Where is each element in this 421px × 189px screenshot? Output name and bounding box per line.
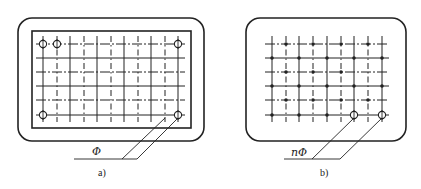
panel-b-staggered-grid — [246, 18, 406, 159]
tie-point-dot — [366, 42, 370, 46]
tie-point-dot — [297, 56, 301, 60]
diameter-label-b: nΦ — [291, 146, 307, 159]
tie-point-dot — [352, 84, 356, 88]
rebar-diagram: Φ a) nΦ b) — [0, 0, 421, 189]
tie-point-dot — [270, 84, 274, 88]
tie-point-dot — [284, 42, 288, 46]
tie-point-dot — [352, 56, 356, 60]
tie-point-dot — [325, 84, 329, 88]
panel-a-uniform-grid — [18, 18, 204, 159]
tie-point-dot — [339, 98, 343, 102]
tie-point-dot — [311, 98, 315, 102]
tie-point-dot — [270, 56, 274, 60]
leader-line — [312, 118, 354, 159]
tie-point-dot — [311, 42, 315, 46]
tie-point-dot — [325, 113, 329, 117]
tie-point-dot — [297, 113, 301, 117]
tie-point-dot — [284, 98, 288, 102]
caption-a: a) — [98, 167, 106, 179]
diameter-label-a: Φ — [92, 145, 101, 158]
caption-b: b) — [320, 167, 328, 179]
tie-point-dot — [325, 56, 329, 60]
tie-point-dot — [311, 70, 315, 74]
tie-point-dot — [297, 84, 301, 88]
leader-line — [340, 118, 382, 159]
tie-point-dot — [339, 70, 343, 74]
tie-point-dot — [380, 56, 384, 60]
tie-point-dot — [284, 70, 288, 74]
tie-point-dot — [270, 113, 274, 117]
tie-point-dot — [339, 42, 343, 46]
tie-point-dot — [366, 98, 370, 102]
tie-point-dot — [380, 84, 384, 88]
